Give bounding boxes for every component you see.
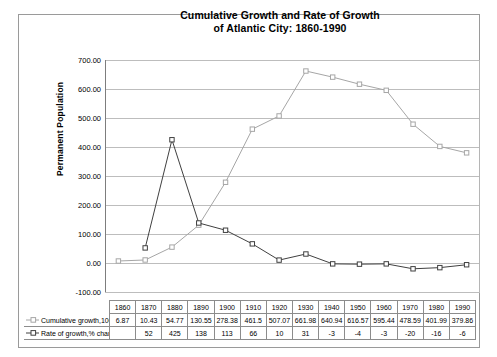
table-value-cell: -20 xyxy=(397,327,423,340)
data-point-marker xyxy=(384,88,388,92)
table-value-cell: 401.99 xyxy=(423,314,449,327)
table-value-cell: -3 xyxy=(371,327,397,340)
table-value-cell: 113 xyxy=(214,327,240,340)
data-point-marker xyxy=(304,252,308,256)
table-value-cell: -3 xyxy=(319,327,345,340)
table-value-cell: 640.94 xyxy=(319,314,345,327)
data-point-marker xyxy=(143,258,147,262)
legend-entry-2: Rate of growth,% change xyxy=(24,327,110,340)
table-header-year: 1880 xyxy=(162,301,188,314)
data-point-marker xyxy=(464,263,468,267)
table-value-cell: 54.77 xyxy=(162,314,188,327)
y-axis-tick-label: 500.00 xyxy=(78,114,101,123)
table-header-year: 1910 xyxy=(240,301,266,314)
table-value-cell: 507.07 xyxy=(266,314,292,327)
table-header-year: 1860 xyxy=(110,301,136,314)
data-point-marker xyxy=(357,82,361,86)
y-axis-tick-label: 700.00 xyxy=(78,56,101,65)
table-value-cell: 138 xyxy=(188,327,214,340)
y-axis-tick-label: 600.00 xyxy=(78,85,101,94)
table-value-cell: 461.5 xyxy=(240,314,266,327)
table-value-cell: 10 xyxy=(266,327,292,340)
table-header-year: 1990 xyxy=(449,301,475,314)
y-axis-title: Permanent Population xyxy=(55,82,65,176)
data-point-marker xyxy=(438,144,442,148)
table-row: Cumulative growth,100s6.8710.4354.77130.… xyxy=(24,314,476,327)
legend-marker-icon xyxy=(26,329,39,337)
y-axis-tick-label: 300.00 xyxy=(78,172,101,181)
table-value-cell: 130.55 xyxy=(188,314,214,327)
data-point-marker xyxy=(170,245,174,249)
legend-label: Rate of growth,% change xyxy=(41,330,110,337)
series-line-1 xyxy=(118,71,466,261)
table-value-cell: 379.86 xyxy=(449,314,475,327)
series-layer xyxy=(105,60,480,292)
table-value-cell: 616.57 xyxy=(345,314,371,327)
table-value-cell: -6 xyxy=(449,327,475,340)
data-point-marker xyxy=(277,258,281,262)
table-value-cell: 661.98 xyxy=(292,314,318,327)
plot-area: 700.00600.00500.00400.00300.00200.00100.… xyxy=(105,60,480,292)
table-row: Rate of growth,% change52425138113661031… xyxy=(24,327,476,340)
table-value-cell: 66 xyxy=(240,327,266,340)
gridline xyxy=(105,292,480,293)
table-value-cell: -16 xyxy=(423,327,449,340)
data-point-marker xyxy=(197,221,201,225)
chart-title: Cumulative Growth and Rate of Growth of … xyxy=(120,9,440,35)
table-value-cell xyxy=(110,327,136,340)
data-point-marker xyxy=(330,262,334,266)
data-point-marker xyxy=(223,180,227,184)
table-header-year: 1970 xyxy=(397,301,423,314)
chart-title-line-2: of Atlantic City: 1860-1990 xyxy=(120,22,440,35)
table-value-cell: 278.38 xyxy=(214,314,240,327)
chart-title-line-1: Cumulative Growth and Rate of Growth xyxy=(120,9,440,22)
y-axis-tick-label: 100.00 xyxy=(78,230,101,239)
data-point-marker xyxy=(250,242,254,246)
data-table: 1860187018801890190019101920193019401950… xyxy=(24,300,476,340)
data-point-marker xyxy=(170,138,174,142)
y-axis-tick-label: 400.00 xyxy=(78,143,101,152)
table-value-cell: -4 xyxy=(345,327,371,340)
table-header-year: 1900 xyxy=(214,301,240,314)
table-value-cell: 425 xyxy=(162,327,188,340)
table-row: 1860187018801890190019101920193019401950… xyxy=(24,301,476,314)
legend-marker-icon xyxy=(26,316,39,324)
data-point-marker xyxy=(223,228,227,232)
table-header-year: 1950 xyxy=(345,301,371,314)
table-header-year: 1980 xyxy=(423,301,449,314)
data-point-marker xyxy=(438,265,442,269)
data-point-marker xyxy=(357,262,361,266)
data-point-marker xyxy=(464,151,468,155)
table-value-cell: 6.87 xyxy=(110,314,136,327)
table-header-year: 1920 xyxy=(266,301,292,314)
data-point-marker xyxy=(277,114,281,118)
y-axis-tick-label: 0.00 xyxy=(86,259,101,268)
table-value-cell: 10.43 xyxy=(136,314,162,327)
y-axis-tick-label: 200.00 xyxy=(78,201,101,210)
table-header-year: 1930 xyxy=(292,301,318,314)
table-header-year: 1870 xyxy=(136,301,162,314)
data-point-marker xyxy=(304,69,308,73)
data-point-marker xyxy=(411,122,415,126)
table-corner-cell xyxy=(24,301,110,314)
series-line-2 xyxy=(145,140,466,269)
table-header-year: 1960 xyxy=(371,301,397,314)
legend-label: Cumulative growth,100s xyxy=(41,316,110,323)
table-value-cell: 478.59 xyxy=(397,314,423,327)
data-point-marker xyxy=(250,127,254,131)
y-axis-tick-label: -100.00 xyxy=(76,288,101,297)
data-point-marker xyxy=(384,262,388,266)
table-value-cell: 52 xyxy=(136,327,162,340)
data-point-marker xyxy=(143,246,147,250)
table-header-year: 1890 xyxy=(188,301,214,314)
legend-entry-1: Cumulative growth,100s xyxy=(24,314,110,327)
data-point-marker xyxy=(116,259,120,263)
data-point-marker xyxy=(411,267,415,271)
table-header-year: 1940 xyxy=(319,301,345,314)
table-value-cell: 595.44 xyxy=(371,314,397,327)
table-value-cell: 31 xyxy=(292,327,318,340)
data-point-marker xyxy=(330,75,334,79)
